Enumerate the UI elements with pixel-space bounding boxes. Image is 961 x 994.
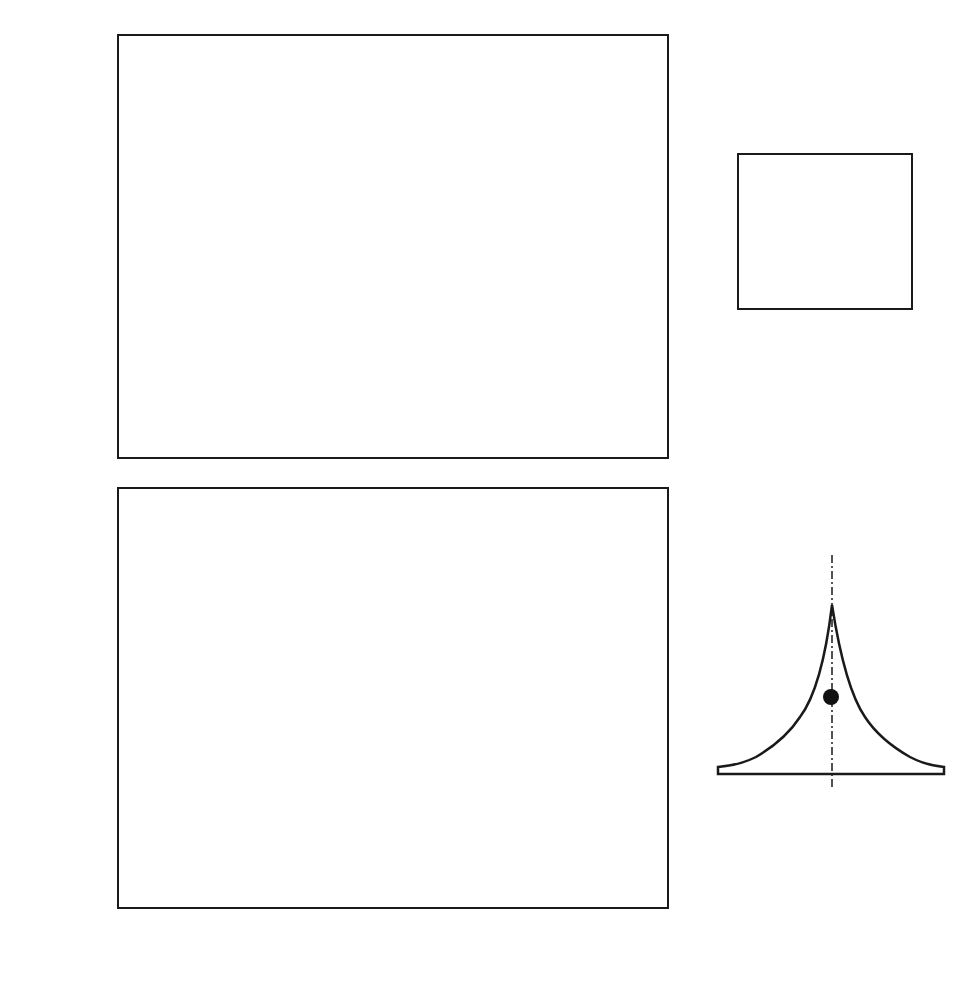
legend <box>0 0 912 309</box>
figure <box>0 0 961 994</box>
legend-box <box>738 154 912 309</box>
plot-frame <box>118 35 668 458</box>
solid-fraction-plot <box>118 488 668 908</box>
measurement-point-icon <box>823 689 839 705</box>
plot-frame <box>118 488 668 908</box>
temperature-plot <box>118 35 668 458</box>
cone-schematic <box>718 555 944 788</box>
